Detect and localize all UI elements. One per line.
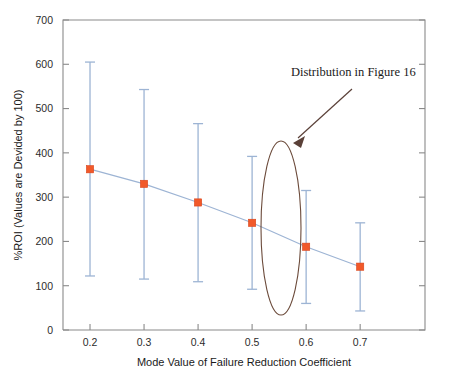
y-tick-label: 400	[35, 147, 53, 159]
y-axis-title: %ROI (Values are Devided by 100)	[12, 90, 24, 261]
y-axis-ticks	[63, 20, 69, 330]
data-point-marker	[249, 219, 256, 226]
y-tick-label: 500	[35, 102, 53, 114]
x-tick-label: 0.7	[353, 336, 368, 348]
chart-figure: 0100200300400500600700 0.20.30.40.50.60.…	[0, 0, 457, 383]
data-point-marker	[140, 180, 147, 187]
distribution-highlight-ellipse	[261, 141, 301, 315]
x-tick-label: 0.3	[137, 336, 152, 348]
y-tick-label: 100	[35, 280, 53, 292]
callout-arrow-line	[298, 89, 352, 138]
x-tick-label: 0.4	[191, 336, 206, 348]
y-tick-label: 0	[47, 324, 53, 336]
data-point-marker	[357, 263, 364, 270]
data-point-marker	[303, 243, 310, 250]
x-tick-label: 0.5	[245, 336, 260, 348]
x-axis-tick-labels: 0.20.30.40.50.60.7	[83, 336, 368, 348]
callout-arrow-group	[293, 89, 352, 148]
chart-canvas: 0100200300400500600700 0.20.30.40.50.60.…	[0, 0, 457, 383]
x-axis-ticks	[90, 324, 360, 330]
x-tick-label: 0.6	[299, 336, 314, 348]
y-tick-label: 600	[35, 58, 53, 70]
error-bars-group	[85, 62, 365, 311]
x-axis-title: Mode Value of Failure Reduction Coeffici…	[137, 356, 351, 368]
y-tick-label: 200	[35, 235, 53, 247]
y-tick-label: 300	[35, 191, 53, 203]
data-markers-group	[86, 166, 363, 271]
data-point-marker	[86, 166, 93, 173]
trend-line	[90, 169, 360, 267]
y-axis-ticks-right	[419, 20, 425, 330]
x-tick-label: 0.2	[83, 336, 98, 348]
y-axis-tick-labels: 0100200300400500600700	[35, 14, 53, 336]
data-point-marker	[194, 199, 201, 206]
y-tick-label: 700	[35, 14, 53, 26]
annotation-label: Distribution in Figure 16	[291, 65, 416, 79]
